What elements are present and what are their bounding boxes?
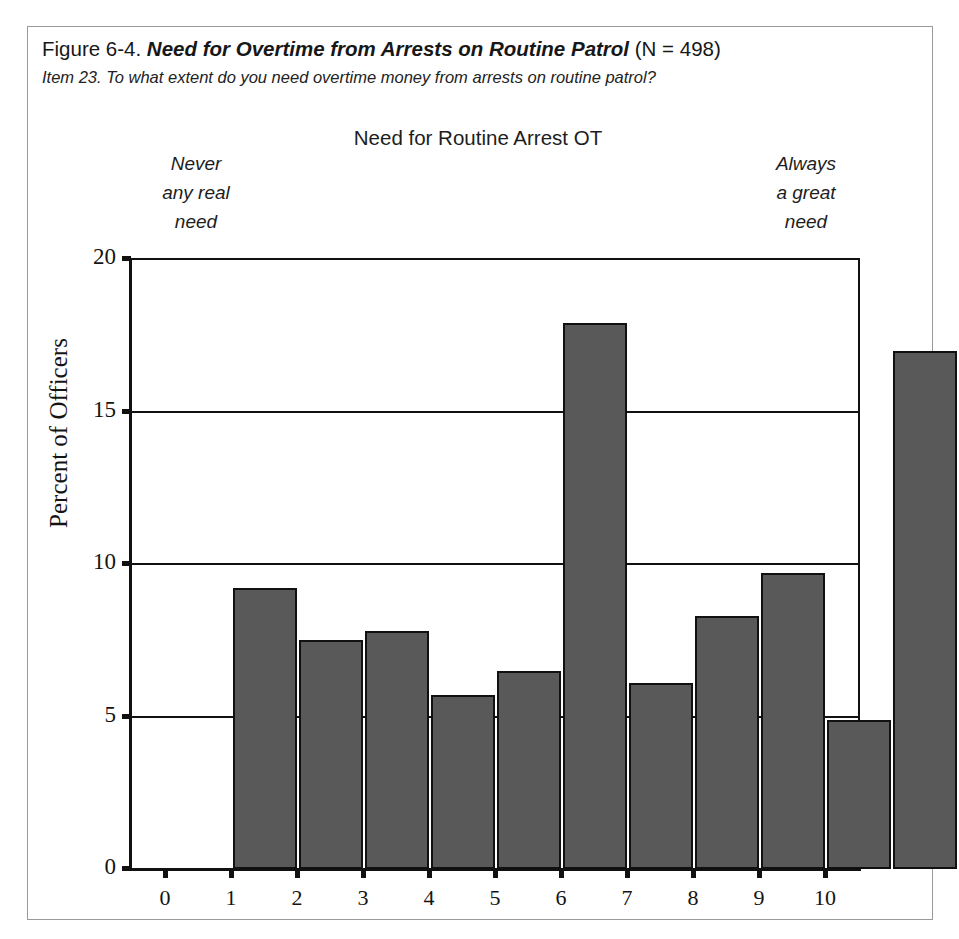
bar-8 [761,573,825,869]
bar-6 [629,683,693,869]
bar-0 [233,588,297,869]
y-tick-label-0: 0 [70,854,116,880]
bar-5 [563,323,627,869]
figure-frame: Figure 6-4. Need for Overtime from Arres… [27,26,933,920]
bar-4 [497,671,561,869]
x-tick-label-0: 0 [145,885,185,911]
x-tick-label-10: 10 [805,885,845,911]
bar-series [233,259,959,869]
y-tick-label-10: 10 [70,549,116,575]
y-tick-label-5: 5 [70,702,116,728]
bar-9 [827,720,891,869]
y-axis-label: Percent of Officers [45,263,73,603]
bar-7 [695,616,759,869]
x-tick-label-4: 4 [409,885,449,911]
plot-area [129,259,859,869]
x-tick-label-5: 5 [475,885,515,911]
bar-chart: Percent of Officers 05101520 01234567891… [28,27,932,919]
x-tick-label-1: 1 [211,885,251,911]
x-tick-label-6: 6 [541,885,581,911]
bar-2 [365,631,429,869]
bar-3 [431,695,495,869]
bar-1 [299,640,363,869]
x-tick-label-9: 9 [739,885,779,911]
y-tick-label-15: 15 [70,397,116,423]
x-tick-label-8: 8 [673,885,713,911]
x-tick-label-2: 2 [277,885,317,911]
y-tick-label-20: 20 [70,244,116,270]
x-tick-label-3: 3 [343,885,383,911]
x-tick-label-7: 7 [607,885,647,911]
bar-10 [893,351,957,870]
